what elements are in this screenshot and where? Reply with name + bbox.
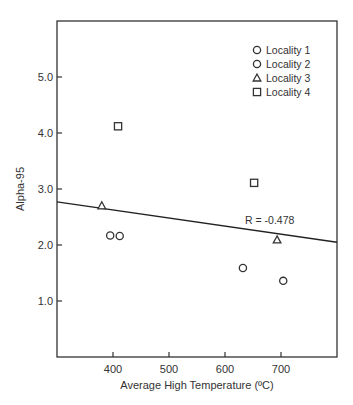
data-points	[98, 123, 287, 285]
y-tick-label: 2.0	[38, 239, 53, 251]
y-tick-label: 1.0	[38, 295, 53, 307]
x-tick-label: 700	[272, 363, 290, 375]
square-legend-icon	[253, 88, 260, 95]
legend-label: Locality 1	[266, 44, 311, 56]
square-marker	[114, 123, 121, 130]
y-axis-ticks: 1.02.03.04.05.0	[38, 71, 62, 307]
y-tick-label: 3.0	[38, 183, 53, 195]
triangle-legend-icon	[253, 74, 261, 81]
circle-marker	[280, 277, 287, 284]
x-axis-title: Average High Temperature (ºC)	[120, 379, 273, 391]
y-tick-label: 5.0	[38, 71, 53, 83]
y-tick-label: 4.0	[38, 127, 53, 139]
x-tick-label: 500	[160, 363, 178, 375]
correlation-annotation: R = -0.478	[245, 214, 294, 226]
x-axis-ticks: 400500600700	[104, 352, 290, 375]
y-axis-title: Alpha-95	[14, 167, 26, 211]
circle-legend-icon	[253, 46, 260, 53]
circle-legend-icon	[253, 60, 260, 67]
circle-marker	[107, 232, 114, 239]
legend-label: Locality 2	[266, 58, 311, 70]
square-marker	[251, 179, 258, 186]
circle-marker	[239, 264, 246, 271]
legend-label: Locality 4	[266, 86, 311, 98]
legend-label: Locality 3	[266, 72, 311, 84]
triangle-marker	[98, 202, 106, 209]
scatter-chart: 400500600700 1.02.03.04.05.0 R = -0.478 …	[0, 0, 353, 405]
x-tick-label: 600	[216, 363, 234, 375]
triangle-marker	[273, 236, 281, 243]
legend: Locality 1Locality 2Locality 3Locality 4	[253, 44, 310, 98]
circle-marker	[116, 232, 123, 239]
x-tick-label: 400	[104, 363, 122, 375]
